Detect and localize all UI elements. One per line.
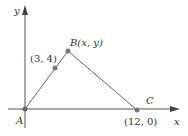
y-axis-arrow-icon xyxy=(22,5,28,15)
coordinate-diagram: y x A (3, 4) B(x, y) C (12, 0) xyxy=(0,0,188,136)
x-axis-arrow-icon xyxy=(170,106,180,112)
label-B: B(x, y) xyxy=(69,37,103,48)
segment-BC xyxy=(68,51,137,110)
label-A: A xyxy=(15,115,23,126)
point-B xyxy=(66,49,71,54)
label-B-coords: (x, y) xyxy=(77,37,103,48)
label-3-4: (3, 4) xyxy=(30,53,57,64)
point-3-4 xyxy=(53,66,58,71)
point-C xyxy=(135,108,140,113)
label-C: C xyxy=(146,95,154,106)
y-axis-label: y xyxy=(13,5,20,16)
x-axis-label: x xyxy=(174,116,180,127)
point-A xyxy=(23,107,28,112)
label-C-coords: (12, 0) xyxy=(124,116,157,127)
label-B-letter: B xyxy=(69,37,77,48)
